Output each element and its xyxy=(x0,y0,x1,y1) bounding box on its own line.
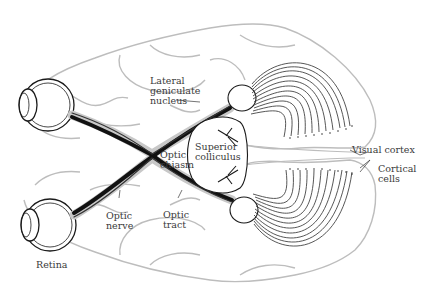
label-retina: Retina xyxy=(36,260,67,270)
label-superior-colliculus: Superior colliculus xyxy=(195,142,241,162)
lateral-geniculate-nucleus-lower xyxy=(230,197,258,223)
lateral-geniculate-nucleus-upper xyxy=(228,85,256,111)
label-cortical-cells: Cortical cells xyxy=(378,164,416,184)
left-eye-lower xyxy=(21,199,76,251)
optic-radiations-lower xyxy=(253,170,352,246)
left-eye-upper xyxy=(19,79,74,131)
label-optic-nerve: Optic nerve xyxy=(106,211,133,231)
label-visual-cortex: Visual cortex xyxy=(352,145,415,155)
label-optic-tract: Optic tract xyxy=(163,210,189,230)
optic-radiations-upper xyxy=(251,63,350,137)
visual-pathway-diagram: Lateral geniculate nucleus Optic chiasm … xyxy=(0,0,425,306)
label-lateral-geniculate-nucleus: Lateral geniculate nucleus xyxy=(150,76,200,106)
label-optic-chiasm: Optic chiasm xyxy=(160,150,194,170)
